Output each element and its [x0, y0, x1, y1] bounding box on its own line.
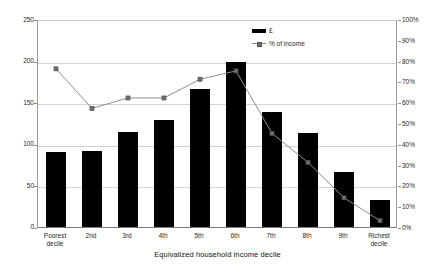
line-data-point	[270, 131, 274, 135]
right-axis-tickmark	[398, 62, 401, 63]
left-axis-tick-label: 0	[4, 224, 34, 231]
right-axis-tick-label: 30%	[402, 163, 434, 170]
line-data-point	[378, 219, 382, 223]
legend-label: £	[269, 27, 273, 34]
right-axis-tickmark	[398, 41, 401, 42]
right-axis-tick-label: 90%	[402, 38, 434, 45]
square-marker-icon	[257, 42, 262, 47]
left-axis-tickmark	[34, 228, 37, 229]
line-data-point	[90, 106, 94, 110]
right-axis-tick-label: 50%	[402, 121, 434, 128]
chart-container: 250 200 150 100 50 0 100% 90% 80% 70% 60…	[0, 0, 435, 280]
line-marker-icon	[252, 41, 266, 47]
right-axis-tickmark	[398, 145, 401, 146]
x-axis-title: Equivalized household income decile	[0, 250, 435, 259]
bar-swatch-icon	[252, 29, 266, 33]
right-axis-tick-label: 0%	[402, 225, 434, 232]
line-data-point	[342, 196, 346, 200]
left-axis-tick-label: 50	[4, 183, 34, 190]
right-axis-tickmark	[398, 207, 401, 208]
line-data-point	[126, 96, 130, 100]
line-series	[38, 21, 398, 229]
legend-item-percent-of-income: % of income	[252, 37, 362, 50]
legend-label: % of income	[269, 40, 305, 47]
right-axis-tickmark	[398, 82, 401, 83]
right-axis-tickmark	[398, 103, 401, 104]
line-data-point	[234, 69, 238, 73]
line-data-point	[306, 160, 310, 164]
left-axis-tick-label: 250	[4, 17, 34, 24]
right-axis-tick-label: 10%	[402, 204, 434, 211]
right-axis-tick-label: 20%	[402, 183, 434, 190]
left-axis-tick-label: 100	[4, 141, 34, 148]
line-data-point	[198, 77, 202, 81]
right-axis-tickmark	[398, 124, 401, 125]
legend: £ % of income	[252, 24, 362, 50]
right-axis-tick-label: 60%	[402, 100, 434, 107]
line-data-point	[54, 67, 58, 71]
right-axis-tick-label: 70%	[402, 79, 434, 86]
left-axis-tick-label: 150	[4, 100, 34, 107]
x-axis-tick-label: Richestdecile	[356, 232, 402, 248]
right-axis-tick-label: 100%	[402, 17, 434, 24]
right-axis-tickmark	[398, 228, 401, 229]
plot-area	[37, 20, 397, 228]
right-axis-tickmark	[398, 166, 401, 167]
right-axis-tickmark	[398, 20, 401, 21]
left-axis-tick-label: 200	[4, 58, 34, 65]
line-data-point	[162, 96, 166, 100]
right-axis-tickmark	[398, 186, 401, 187]
legend-item-pounds: £	[252, 24, 362, 37]
right-axis-tick-label: 80%	[402, 59, 434, 66]
right-axis-tick-label: 40%	[402, 142, 434, 149]
